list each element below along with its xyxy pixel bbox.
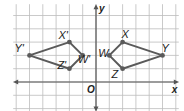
vertex-point [120,66,125,71]
y-axis-label: y [98,3,105,14]
origin-label: O [87,84,95,95]
x-axis-arrow-left-icon [13,80,18,85]
x-axis-label: x [171,84,178,95]
vertex-label: Y' [15,42,25,54]
vertex-label: X' [57,29,68,41]
vertex-point [67,66,72,71]
vertex-point [120,40,125,45]
y-axis-arrow-up-icon [94,4,99,9]
vertex-label: Z [111,68,120,80]
vertex-label: Y [162,42,170,54]
vertex-label: W [98,47,110,59]
vertex-point [27,53,32,58]
coordinate-plane: yxOWXYZW'X'Y'Z' [0,0,184,111]
vertex-label: X [121,28,130,40]
vertex-label: Z' [56,59,67,71]
vertex-label: W' [78,53,91,65]
